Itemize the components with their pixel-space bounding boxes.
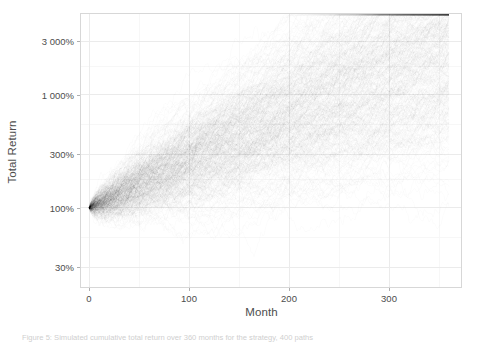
x-axis-title-label: Month: [245, 306, 277, 318]
y-axis-title: Total Return: [0, 0, 24, 341]
y-axis-tick-label: 100%: [20, 202, 74, 213]
figure-caption: Figure 5: Simulated cumulative total ret…: [22, 333, 472, 342]
x-axis-title: Month: [0, 306, 481, 318]
plot-panel: [80, 13, 462, 288]
x-axis-tick-mark: [89, 288, 90, 291]
x-axis-tick-label: 100: [181, 293, 197, 304]
x-axis-tick-mark: [289, 288, 290, 291]
y-axis-tick-label: 300%: [20, 149, 74, 160]
plot-lines: [81, 14, 461, 287]
x-axis-tick-mark: [189, 288, 190, 291]
x-axis-tick-mark: [389, 288, 390, 291]
y-axis-tick-label: 3 000%: [20, 36, 74, 47]
y-axis-title-label: Total Return: [6, 120, 18, 183]
x-axis-tick-label: 0: [86, 293, 91, 304]
x-axis-tick-label: 200: [281, 293, 297, 304]
x-axis-tick-label: 300: [381, 293, 397, 304]
y-axis-tick-label: 30%: [20, 262, 74, 273]
y-axis-tick-label: 1 000%: [20, 89, 74, 100]
